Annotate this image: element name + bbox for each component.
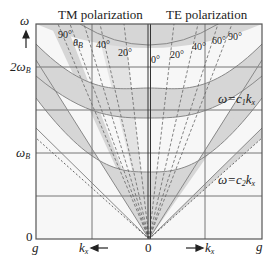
te-angle-90: 90°	[228, 32, 242, 42]
te-angle-0: 0°	[151, 55, 160, 65]
te-angle-20: 20°	[170, 50, 184, 60]
tm-angle-brewster: θB	[73, 38, 83, 50]
tm-angle-20: 20°	[118, 48, 132, 58]
tm-title: TM polarization	[58, 8, 143, 21]
light-line-c2-label: ω=c2kx	[218, 173, 255, 188]
tick-2omega-b: 2ωB	[10, 60, 31, 75]
omega-axis-label: ω	[20, 14, 29, 27]
te-angle-60: 60°	[212, 36, 226, 46]
te-angle-40: 40°	[192, 42, 206, 52]
tick-omega-b: ωB	[16, 146, 30, 161]
kx-left-label: kx	[79, 241, 88, 256]
light-line-c1-label: ω=c1kx	[218, 92, 255, 107]
tm-angle-90: 90°	[58, 30, 72, 40]
x-right-edge-g: g	[256, 240, 263, 253]
x-left-edge-g: g	[32, 241, 39, 254]
kx-right-label: kx	[205, 241, 214, 256]
te-title: TE polarization	[166, 8, 247, 21]
tm-angle-40: 40°	[96, 40, 110, 50]
x-center-zero: 0	[145, 241, 152, 254]
